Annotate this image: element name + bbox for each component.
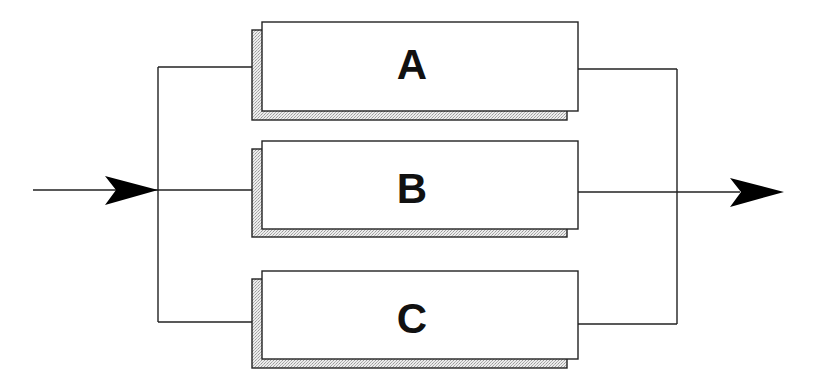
input-connector bbox=[33, 176, 158, 205]
block-c: C bbox=[252, 271, 578, 368]
output-joiner bbox=[578, 69, 677, 324]
block-c-label: C bbox=[397, 295, 427, 342]
block-a: A bbox=[252, 22, 578, 120]
block-b-label: B bbox=[397, 165, 427, 212]
input-splitter bbox=[158, 67, 252, 322]
block-b: B bbox=[252, 141, 578, 237]
block-a-label: A bbox=[397, 41, 427, 88]
output-connector bbox=[677, 178, 784, 207]
parallel-block-diagram: A B C bbox=[0, 0, 813, 387]
